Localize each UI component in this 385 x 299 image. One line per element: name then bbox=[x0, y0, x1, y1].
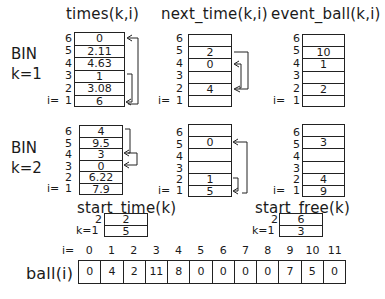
next-time-cell: 0 bbox=[189, 59, 231, 71]
ball-cell: 7 bbox=[279, 261, 301, 283]
ball-array: 0 4 2 11 8 0 0 0 0 7 5 0 bbox=[78, 260, 346, 284]
i-prefix: i= bbox=[47, 95, 59, 107]
ball-index: 3 bbox=[145, 244, 167, 257]
ball-cell: 5 bbox=[302, 261, 324, 283]
i-prefix: i= bbox=[158, 185, 170, 197]
ball-cell: 4 bbox=[101, 261, 123, 283]
i-label: 1 bbox=[286, 185, 300, 197]
i-label: 5 bbox=[169, 45, 183, 57]
bin2-label: BIN k=2 bbox=[11, 138, 42, 178]
k-label: k=1 bbox=[252, 225, 275, 237]
ball-cell: 0 bbox=[257, 261, 279, 283]
start-free-cell: 3 bbox=[280, 226, 322, 237]
bin1-label: BIN k=1 bbox=[11, 44, 42, 84]
i-label: 1 bbox=[58, 183, 72, 195]
arrow-next2-inner bbox=[233, 178, 238, 191]
start-time-array: 2 5 bbox=[104, 213, 148, 237]
arrow-next2-outer bbox=[234, 142, 247, 193]
bin2-times-array: 4 9.5 3 0 6.22 7.9 bbox=[79, 125, 123, 195]
ball-index: 9 bbox=[279, 244, 301, 257]
i-label: 5 bbox=[58, 45, 72, 57]
ball-title: ball(i) bbox=[26, 264, 73, 283]
ball-index: 11 bbox=[324, 244, 346, 257]
bin1-label-line2: k=1 bbox=[11, 64, 42, 84]
i-label: 5 bbox=[286, 45, 300, 57]
event-ball-cell: 9 bbox=[303, 186, 344, 198]
next-time-cell: 5 bbox=[189, 186, 231, 198]
ball-cell: 0 bbox=[213, 261, 235, 283]
ball-index: 5 bbox=[190, 244, 212, 257]
times-cell: 3.08 bbox=[75, 83, 124, 96]
next-time-title: next_time(k,i) bbox=[161, 5, 268, 23]
i-label: 3 bbox=[286, 70, 300, 82]
bin1-times-array: 0 2.11 4.63 1 3.08 6 bbox=[74, 32, 125, 107]
next-time-cell: 0 bbox=[189, 137, 231, 149]
ball-index: 4 bbox=[167, 244, 189, 257]
times-cell: 6 bbox=[75, 96, 124, 109]
arrow-next1-inner bbox=[235, 64, 241, 88]
ball-cell: 0 bbox=[190, 261, 212, 283]
next-time-cell bbox=[189, 72, 231, 84]
start-time-cell: 5 bbox=[105, 226, 147, 237]
ball-cell: 11 bbox=[146, 261, 168, 283]
bin2-label-line2: k=2 bbox=[11, 158, 42, 178]
bin2-next-time-array: 0 1 5 bbox=[188, 124, 232, 197]
times-title: times(k,i) bbox=[66, 5, 139, 23]
next-time-cell: 4 bbox=[189, 84, 231, 96]
i-label: 1 bbox=[58, 95, 72, 107]
i-prefix: i= bbox=[158, 95, 170, 107]
next-time-cell bbox=[189, 162, 231, 174]
i-prefix: i= bbox=[47, 183, 59, 195]
i-label: 1 bbox=[169, 185, 183, 197]
ball-index: 7 bbox=[234, 244, 256, 257]
event-ball-cell bbox=[303, 96, 344, 108]
event-ball-cell bbox=[303, 162, 344, 174]
arrow-times2-outer bbox=[125, 129, 130, 153]
start-free-cell: 6 bbox=[280, 214, 322, 226]
ball-cell: 8 bbox=[168, 261, 190, 283]
event-ball-cell: 1 bbox=[303, 59, 344, 71]
i-prefix: i= bbox=[273, 185, 285, 197]
event-ball-cell bbox=[303, 149, 344, 161]
i-prefix: i= bbox=[273, 95, 285, 107]
times-cell: 4 bbox=[80, 126, 122, 138]
arrow-next1-outer bbox=[234, 52, 248, 89]
event-ball-cell: 3 bbox=[303, 137, 344, 149]
ball-index: 0 bbox=[78, 244, 100, 257]
bin1-label-line1: BIN bbox=[11, 44, 42, 64]
bin2-event-ball-array: 3 4 9 bbox=[302, 124, 345, 197]
k-label: k=1 bbox=[76, 225, 99, 237]
next-time-cell bbox=[189, 149, 231, 161]
i-label: 1 bbox=[169, 95, 183, 107]
ball-cell: 2 bbox=[124, 261, 146, 283]
bin1-next-time-array: 2 0 4 bbox=[188, 34, 232, 107]
event-ball-title: event_ball(k,i) bbox=[271, 5, 381, 23]
times-cell: 0 bbox=[75, 33, 124, 46]
arrow-times1-outer bbox=[128, 38, 138, 104]
start-free-array: 6 3 bbox=[279, 213, 323, 237]
ball-indices: 0 1 2 3 4 5 6 7 8 9 10 11 bbox=[78, 244, 346, 257]
start-time-cell: 2 bbox=[105, 214, 147, 226]
ball-i-prefix: i= bbox=[62, 245, 74, 257]
ball-cell: 0 bbox=[324, 261, 345, 283]
times-cell: 4.63 bbox=[75, 58, 124, 71]
ball-index: 2 bbox=[123, 244, 145, 257]
i-label: 1 bbox=[286, 95, 300, 107]
ball-index: 1 bbox=[100, 244, 122, 257]
i-label: 3 bbox=[169, 70, 183, 82]
ball-cell: 0 bbox=[235, 261, 257, 283]
next-time-cell bbox=[189, 96, 231, 108]
bin1-event-ball-array: 10 1 2 bbox=[302, 34, 345, 107]
ball-index: 10 bbox=[301, 244, 323, 257]
times-cell: 7.9 bbox=[80, 184, 122, 195]
arrow-times2-inner bbox=[125, 153, 137, 165]
event-ball-cell bbox=[303, 72, 344, 84]
i-label: 3 bbox=[58, 70, 72, 82]
ball-cell: 0 bbox=[79, 261, 101, 283]
ball-index: 8 bbox=[257, 244, 279, 257]
bin2-label-line1: BIN bbox=[11, 138, 42, 158]
event-ball-cell: 2 bbox=[303, 84, 344, 96]
arrow-times1-inner bbox=[127, 74, 132, 102]
ball-index: 6 bbox=[212, 244, 234, 257]
